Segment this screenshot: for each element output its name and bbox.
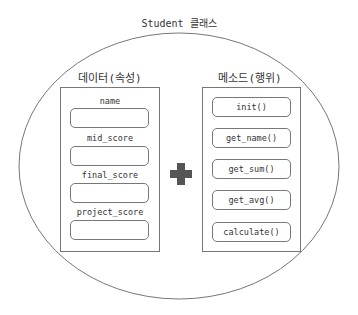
class-title: Student 클래스 <box>0 15 358 30</box>
attribute-slot-final-score <box>70 183 149 203</box>
plus-icon <box>170 163 192 185</box>
attribute-slot-mid-score <box>70 146 149 166</box>
method-section-title: 메소드(행위) <box>200 69 300 85</box>
method-init: init() <box>212 97 291 117</box>
data-section-title: 데이터(속성) <box>60 69 160 85</box>
method-get-avg: get_avg() <box>212 190 291 210</box>
method-calculate: calculate() <box>212 222 291 242</box>
attribute-label-final-score: final_score <box>60 170 160 180</box>
attribute-label-name: name <box>60 96 160 106</box>
attribute-slot-name <box>70 108 149 128</box>
attribute-label-mid-score: mid_score <box>60 133 160 143</box>
method-get-name: get_name() <box>212 128 291 148</box>
attribute-slot-project-score <box>70 220 149 240</box>
attribute-label-project-score: project_score <box>60 207 160 217</box>
method-get-sum: get_sum() <box>212 159 291 179</box>
class-boundary-ellipse <box>0 0 358 315</box>
